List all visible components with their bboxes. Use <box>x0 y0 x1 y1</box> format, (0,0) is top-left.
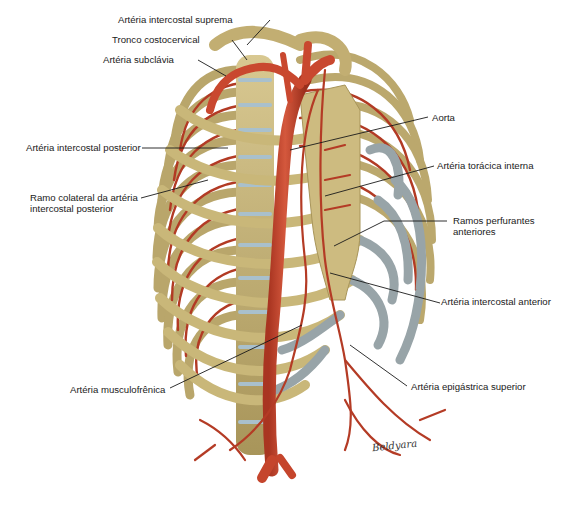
label-arteria-subclavia: Artéria subclávia <box>103 54 174 65</box>
label-arteria-epigastrica-superior: Artéria epigástrica superior <box>411 381 526 392</box>
label-ramos-perfurantes-anteriores: Ramos perfurantes anteriores <box>453 215 535 237</box>
label-arteria-intercostal-suprema: Artéria intercostal suprema <box>118 14 233 25</box>
thoracic-arteries-illustration: Artéria intercostal suprema Tronco costo… <box>0 0 569 506</box>
leader-line-tronco-costocervical <box>232 40 247 60</box>
label-arteria-toracica-interna: Artéria torácica interna <box>437 160 534 171</box>
label-ramo-colateral: Ramo colateral da artéria intercostal po… <box>30 192 142 214</box>
label-arteria-musculofrenica: Artéria musculofrênica <box>70 384 165 395</box>
label-arteria-intercostal-posterior: Artéria intercostal posterior <box>26 142 141 153</box>
label-tronco-costocervical: Tronco costocervical <box>112 34 200 45</box>
label-arteria-intercostal-anterior: Artéria intercostal anterior <box>441 296 551 307</box>
leader-line-arteria-epigastrica-superior <box>350 345 407 386</box>
rib-cage-drawing <box>0 0 569 506</box>
label-aorta: Aorta <box>432 112 455 123</box>
